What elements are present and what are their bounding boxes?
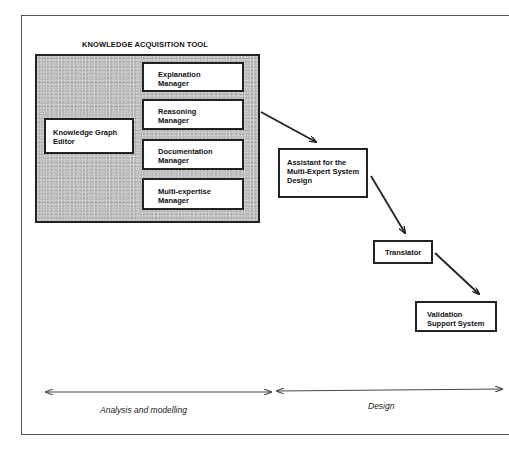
analysis-phase-label: Analysis and modelling bbox=[100, 405, 187, 415]
arrow-tool-to-assistant bbox=[261, 112, 316, 142]
arrow-assistant-to-translator bbox=[371, 176, 405, 233]
design-phase-label: Design bbox=[368, 401, 394, 411]
connectors-layer bbox=[0, 0, 509, 453]
arrow-translator-to-validation bbox=[435, 253, 479, 294]
design-span-arrow bbox=[277, 389, 502, 391]
